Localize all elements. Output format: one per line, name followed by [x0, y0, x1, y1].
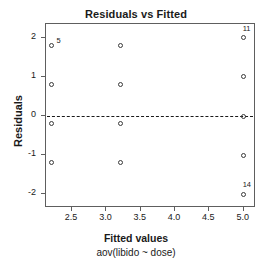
- x-axis-tick: [243, 207, 244, 211]
- y-axis-tick: [41, 193, 45, 194]
- x-axis-subtitle: aov(libido ~ dose): [0, 247, 272, 258]
- point-label: 11: [243, 25, 251, 33]
- data-point: [49, 82, 54, 87]
- data-point: [118, 160, 123, 165]
- x-axis-tick-label: 3.0: [90, 212, 120, 222]
- data-point: [118, 82, 123, 87]
- x-axis-tick-label: 5.0: [228, 212, 258, 222]
- data-point: [118, 43, 123, 48]
- y-axis-tick-label: 1: [8, 70, 36, 80]
- plot-area: 51114: [46, 24, 254, 206]
- data-point: [241, 192, 246, 197]
- residuals-vs-fitted-plot: Residuals vs Fitted 51114 Residuals Fitt…: [0, 0, 272, 277]
- y-axis-tick-label: 0: [8, 109, 36, 119]
- point-label: 14: [243, 181, 251, 189]
- x-axis-tick-label: 4.0: [159, 212, 189, 222]
- x-axis-tick: [174, 207, 175, 211]
- x-axis-tick: [140, 207, 141, 211]
- x-axis-title: Fitted values: [0, 232, 272, 244]
- x-axis-tick: [105, 207, 106, 211]
- data-point: [241, 114, 246, 119]
- zero-reference-line: [47, 116, 253, 117]
- x-axis-tick: [71, 207, 72, 211]
- data-point: [49, 43, 54, 48]
- data-point: [241, 153, 246, 158]
- y-axis-tick-label: -2: [8, 187, 36, 197]
- y-axis-tick: [41, 154, 45, 155]
- chart-title: Residuals vs Fitted: [0, 8, 272, 20]
- y-axis-tick: [41, 115, 45, 116]
- x-axis-tick: [208, 207, 209, 211]
- x-axis-tick-label: 2.5: [56, 212, 86, 222]
- y-axis-tick-label: -1: [8, 148, 36, 158]
- data-point: [241, 35, 246, 40]
- plot-panel: 51114: [45, 23, 255, 207]
- x-axis-tick-label: 3.5: [125, 212, 155, 222]
- y-axis-tick: [41, 37, 45, 38]
- point-label: 5: [56, 37, 60, 45]
- x-axis-tick-label: 4.5: [193, 212, 223, 222]
- data-point: [49, 121, 54, 126]
- data-point: [49, 160, 54, 165]
- y-axis-tick: [41, 76, 45, 77]
- data-point: [241, 74, 246, 79]
- data-point: [118, 121, 123, 126]
- y-axis-tick-label: 2: [8, 31, 36, 41]
